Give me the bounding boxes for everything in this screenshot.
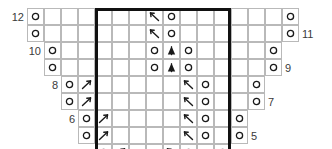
chart-cell [214,8,231,25]
chart-cell [248,59,265,76]
chart-cell [129,59,146,76]
chart-cell [180,59,197,76]
chart-cell [197,93,214,110]
chart-cell [214,144,231,149]
chart-cell [95,8,112,25]
chart-cell [78,59,95,76]
chart-cell [27,8,44,25]
chart-cell [95,25,112,42]
chart-cell [163,25,180,42]
chart-cell [95,127,112,144]
chart-cell [197,127,214,144]
chart-cell [197,59,214,76]
chart-cell [129,25,146,42]
chart-cell [146,25,163,42]
chart-cell [163,110,180,127]
chart-cell [282,8,299,25]
chart-cell [163,59,180,76]
chart-cell [197,110,214,127]
chart-cell [112,42,129,59]
chart-cell [214,127,231,144]
chart-cell [265,25,282,42]
chart-cell [231,42,248,59]
chart-cell [129,8,146,25]
chart-cell [44,25,61,42]
chart-cell [129,76,146,93]
row-label-right-11: 11 [302,25,332,42]
chart-cell [163,144,180,149]
chart-cell [44,59,61,76]
chart-cell [231,110,248,127]
chart-cell [44,42,61,59]
chart-cell [146,127,163,144]
chart-cell [78,25,95,42]
chart-cell [265,59,282,76]
chart-cell [197,8,214,25]
chart-cell [78,110,95,127]
chart-cell [197,25,214,42]
chart-cell [146,8,163,25]
chart-cell [78,8,95,25]
chart-cell [180,25,197,42]
row-label-right-7: 7 [268,93,328,110]
chart-cell [197,144,214,149]
row-label-left-10: 10 [0,42,41,59]
chart-cell [231,76,248,93]
chart-cell [95,93,112,110]
chart-cell [129,93,146,110]
chart-cell [282,25,299,42]
chart-cell [163,127,180,144]
chart-cell [95,144,112,149]
chart-cell [61,76,78,93]
chart-cell [180,76,197,93]
chart-cell [248,25,265,42]
chart-cell [44,8,61,25]
chart-cell [180,144,197,149]
chart-cell [214,42,231,59]
chart-cell [129,144,146,149]
chart-cell [248,76,265,93]
chart-cell [95,76,112,93]
chart-cell [112,59,129,76]
chart-cell [146,144,163,149]
chart-cell [231,93,248,110]
row-label-left-6: 6 [0,110,75,127]
chart-cell [180,127,197,144]
chart-cell [248,8,265,25]
chart-cell [180,42,197,59]
chart-cell [214,59,231,76]
chart-cell [112,8,129,25]
chart-cell [248,42,265,59]
chart-cell [112,144,129,149]
chart-cell [78,93,95,110]
chart-cell [61,8,78,25]
chart-cell [231,127,248,144]
chart-cell [78,76,95,93]
chart-cell [180,8,197,25]
chart-cell [163,8,180,25]
chart-cell [146,110,163,127]
chart-cell [180,110,197,127]
chart-cell [231,25,248,42]
chart-cell [248,93,265,110]
chart-cell [265,42,282,59]
chart-cell [163,76,180,93]
row-label-left-4: 4 [0,144,92,149]
row-label-left-8: 8 [0,76,58,93]
chart-cell [231,59,248,76]
knitting-chart: 12111098765432 (WS)1 (RS) [0,0,332,149]
chart-cell [112,110,129,127]
chart-cell [146,93,163,110]
row-label-left-12: 12 [0,8,24,25]
chart-cell [112,127,129,144]
chart-cell [231,8,248,25]
chart-cell [197,76,214,93]
chart-cell [214,110,231,127]
chart-cell [61,59,78,76]
chart-cell [95,42,112,59]
chart-cell [78,127,95,144]
chart-cell [146,76,163,93]
chart-cell [214,25,231,42]
chart-cell [214,93,231,110]
chart-cell [163,42,180,59]
